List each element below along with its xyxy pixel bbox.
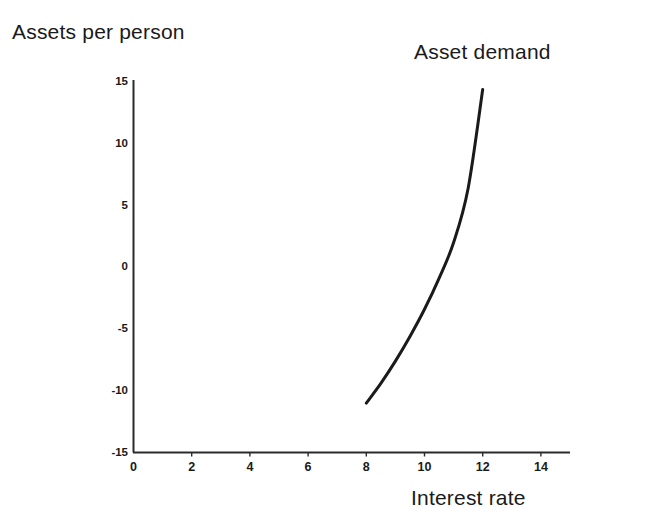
asset-demand-curve [366,89,482,403]
plot-area [0,0,651,530]
chart-figure: Assets per person Asset demand Interest … [0,0,651,530]
